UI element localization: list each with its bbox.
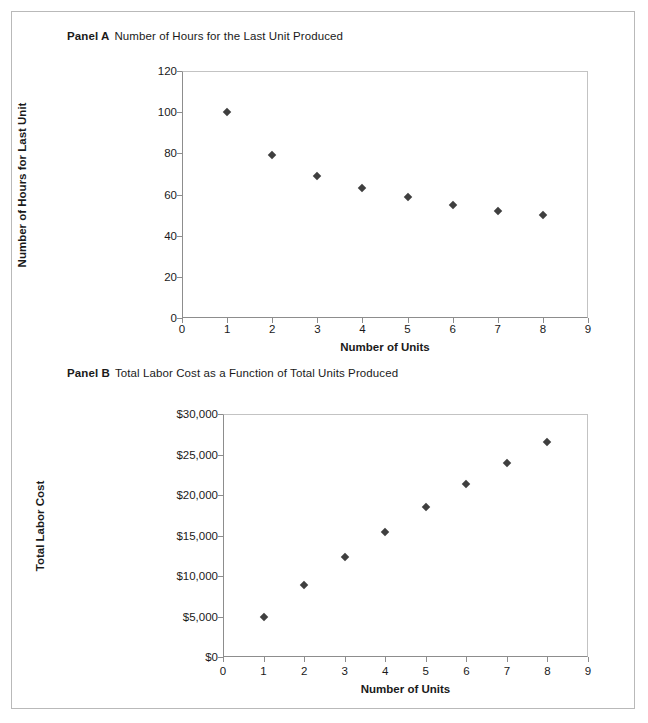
x-axis-label-a: Number of Units xyxy=(182,341,588,353)
x-tick-label-b: 3 xyxy=(335,665,355,678)
x-tick-label-a: 5 xyxy=(398,323,418,336)
y-tick-label-b: $15,000 xyxy=(152,530,218,543)
x-tick-mark-a xyxy=(543,318,544,323)
x-tick-label-a: 7 xyxy=(488,323,508,336)
x-tick-label-b: 7 xyxy=(497,665,517,678)
x-tick-label-a: 8 xyxy=(533,323,553,336)
chart-panel-a: Number of Hours for Last Unit Number of … xyxy=(12,58,636,358)
x-tick-mark-a xyxy=(272,318,273,323)
y-tick-label-b: $25,000 xyxy=(152,449,218,462)
panel-a-title-text: Number of Hours for the Last Unit Produc… xyxy=(114,30,343,42)
y-tick-label-b: $5,000 xyxy=(152,611,218,624)
x-tick-mark-b xyxy=(588,657,589,662)
x-tick-label-a: 3 xyxy=(307,323,327,336)
x-tick-label-a: 1 xyxy=(217,323,237,336)
y-tick-label-a: 40 xyxy=(143,230,177,243)
x-tick-mark-a xyxy=(408,318,409,323)
y-axis-label-a: Number of Hours for Last Unit xyxy=(16,70,30,300)
y-tick-mark-b xyxy=(218,495,223,496)
x-tick-mark-a xyxy=(453,318,454,323)
x-tick-label-b: 4 xyxy=(375,665,395,678)
x-tick-mark-b xyxy=(345,657,346,662)
x-tick-label-b: 8 xyxy=(537,665,557,678)
y-tick-mark-a xyxy=(177,112,182,113)
x-tick-mark-b xyxy=(547,657,548,662)
plot-area-b xyxy=(223,414,588,657)
x-tick-label-b: 6 xyxy=(456,665,476,678)
y-tick-label-a: 100 xyxy=(143,106,177,119)
y-tick-mark-a xyxy=(177,71,182,72)
x-tick-mark-b xyxy=(426,657,427,662)
y-tick-mark-b xyxy=(218,414,223,415)
x-tick-label-b: 9 xyxy=(578,665,598,678)
panel-b-title: Panel BTotal Labor Cost as a Function of… xyxy=(67,367,398,379)
x-tick-mark-a xyxy=(227,318,228,323)
y-tick-label-b: $10,000 xyxy=(152,570,218,583)
x-tick-mark-a xyxy=(498,318,499,323)
y-tick-label-a: 80 xyxy=(143,147,177,160)
y-tick-mark-b xyxy=(218,455,223,456)
x-tick-mark-b xyxy=(223,657,224,662)
y-axis-label-b: Total Labor Cost xyxy=(34,436,48,616)
x-tick-label-a: 4 xyxy=(352,323,372,336)
y-tick-mark-b xyxy=(218,576,223,577)
panel-b-label: Panel B xyxy=(67,367,110,379)
x-tick-label-a: 6 xyxy=(443,323,463,336)
panel-a-title: Panel ANumber of Hours for the Last Unit… xyxy=(67,30,343,42)
y-tick-label-b: $20,000 xyxy=(152,489,218,502)
x-tick-mark-b xyxy=(385,657,386,662)
x-tick-mark-a xyxy=(182,318,183,323)
x-tick-mark-b xyxy=(304,657,305,662)
panel-b-title-text: Total Labor Cost as a Function of Total … xyxy=(115,367,398,379)
x-tick-mark-b xyxy=(507,657,508,662)
y-tick-label-a: 20 xyxy=(143,271,177,284)
x-tick-label-b: 2 xyxy=(294,665,314,678)
y-tick-mark-b xyxy=(218,617,223,618)
y-tick-label-a: 120 xyxy=(143,65,177,78)
y-tick-label-b: $30,000 xyxy=(152,408,218,421)
x-tick-label-b: 1 xyxy=(254,665,274,678)
y-tick-mark-a xyxy=(177,277,182,278)
x-tick-label-b: 0 xyxy=(213,665,233,678)
x-tick-label-a: 0 xyxy=(172,323,192,336)
x-tick-mark-a xyxy=(317,318,318,323)
figure-frame: Panel ANumber of Hours for the Last Unit… xyxy=(11,11,635,709)
x-tick-mark-a xyxy=(588,318,589,323)
x-axis-label-b: Number of Units xyxy=(223,683,588,695)
y-tick-mark-a xyxy=(177,153,182,154)
y-tick-label-b: $0 xyxy=(152,651,218,664)
x-tick-label-a: 2 xyxy=(262,323,282,336)
x-tick-mark-b xyxy=(264,657,265,662)
y-tick-mark-a xyxy=(177,236,182,237)
chart-panel-b: Total Labor Cost Number of Units $0$5,00… xyxy=(12,397,636,697)
x-tick-label-b: 5 xyxy=(416,665,436,678)
plot-area-a xyxy=(182,71,588,318)
panel-a-label: Panel A xyxy=(67,30,109,42)
x-tick-mark-a xyxy=(362,318,363,323)
x-tick-mark-b xyxy=(466,657,467,662)
x-tick-label-a: 9 xyxy=(578,323,598,336)
y-tick-mark-b xyxy=(218,536,223,537)
y-tick-mark-a xyxy=(177,195,182,196)
y-tick-label-a: 60 xyxy=(143,189,177,202)
